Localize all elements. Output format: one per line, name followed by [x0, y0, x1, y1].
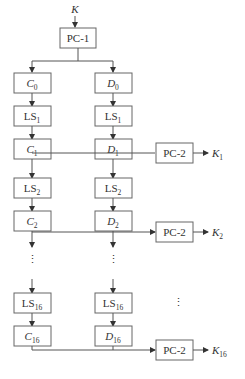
shift-box-ls16-right: LS16: [95, 293, 132, 313]
ellipsis-vertical: ⋮: [108, 253, 119, 265]
subkey-label: K16: [211, 344, 227, 359]
ellipsis-vertical: ⋮: [27, 253, 38, 265]
register-box-d0-right: D0: [95, 73, 132, 93]
pc2-label: PC-2: [163, 344, 186, 356]
des-key-schedule-diagram: K PC-1 C0LS1C1LS2C2⋮LS16C16D0LS1D1LS2D2⋮…: [0, 0, 245, 379]
pc1-box: PC-1: [60, 28, 96, 48]
shift-box-ls16-left: LS16: [14, 293, 51, 313]
shift-box-ls2-right: LS2: [95, 178, 132, 198]
register-box-c1-left: C1: [14, 139, 51, 159]
register-box-c2-left: C2: [14, 211, 51, 231]
shift-box-ls2-left: LS2: [14, 178, 51, 198]
pc2-label: PC-2: [163, 147, 186, 159]
input-key-label: K: [70, 3, 79, 15]
pc2-label: PC-2: [163, 226, 186, 238]
subkey-label: K2: [211, 226, 223, 241]
register-box-c0-left: C0: [14, 73, 51, 93]
register-box-d1-right: D1: [95, 139, 132, 159]
pc1-label: PC-1: [67, 32, 90, 44]
shift-box-ls1-left: LS1: [14, 106, 51, 126]
subkey-label: K1: [211, 147, 223, 162]
register-box-c16-left: C16: [14, 326, 51, 346]
ellipsis-vertical-right: ⋮: [173, 296, 184, 308]
register-box-d16-right: D16: [95, 326, 132, 346]
register-box-d2-right: D2: [95, 211, 132, 231]
shift-box-ls1-right: LS1: [95, 106, 132, 126]
